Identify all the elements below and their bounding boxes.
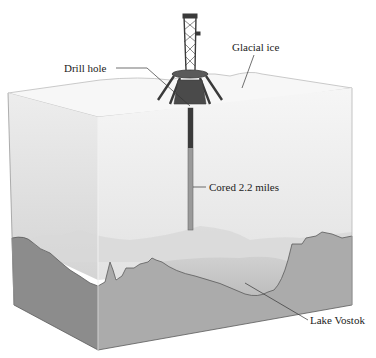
label-glacial-ice: Glacial ice	[232, 42, 279, 53]
label-drill-hole: Drill hole	[64, 63, 106, 74]
ice-block-illustration	[0, 0, 376, 358]
drill-string-upper	[188, 108, 193, 148]
label-lake-vostok: Lake Vostok	[310, 315, 365, 326]
label-cored-depth: Cored 2.2 miles	[209, 182, 279, 193]
